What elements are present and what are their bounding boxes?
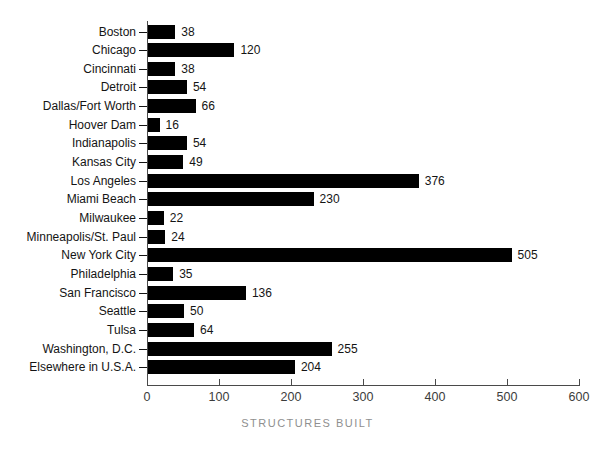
bar-row: Miami Beach230 [0, 192, 615, 206]
value-label: 64 [200, 323, 213, 337]
bar-row: Cincinnati38 [0, 62, 615, 76]
bar-row: Dallas/Fort Worth66 [0, 99, 615, 113]
x-axis-line [147, 385, 580, 386]
bar [148, 211, 164, 225]
category-tick-mark [139, 218, 147, 219]
category-label: Los Angeles [0, 174, 136, 188]
bar-row: San Francisco136 [0, 286, 615, 300]
bar-row: New York City505 [0, 248, 615, 262]
category-tick-mark [139, 87, 147, 88]
category-label: Minneapolis/St. Paul [0, 230, 136, 244]
bar [148, 304, 184, 318]
bar [148, 25, 175, 39]
category-tick-mark [139, 367, 147, 368]
category-label: Elsewhere in U.S.A. [0, 360, 136, 374]
x-tick-mark [435, 379, 436, 385]
category-label: Dallas/Fort Worth [0, 99, 136, 113]
value-label: 66 [202, 99, 215, 113]
bar-row: Boston38 [0, 25, 615, 39]
x-tick-label: 500 [487, 390, 527, 404]
x-axis-title: STRUCTURES BUILT [0, 417, 615, 429]
category-label: Cincinnati [0, 62, 136, 76]
category-label: Boston [0, 25, 136, 39]
bar [148, 80, 187, 94]
category-tick-mark [139, 143, 147, 144]
bar [148, 155, 183, 169]
bar [148, 136, 187, 150]
category-label: Miami Beach [0, 192, 136, 206]
category-tick-mark [139, 237, 147, 238]
category-tick-mark [139, 32, 147, 33]
bar [148, 118, 160, 132]
category-label: Tulsa [0, 323, 136, 337]
category-label: Milwaukee [0, 211, 136, 225]
category-tick-mark [139, 255, 147, 256]
category-label: Hoover Dam [0, 118, 136, 132]
bar-row: Seattle50 [0, 304, 615, 318]
x-tick-mark [363, 379, 364, 385]
bar [148, 62, 175, 76]
category-label: Kansas City [0, 155, 136, 169]
bar [148, 192, 314, 206]
bar-row: Detroit54 [0, 80, 615, 94]
category-label: Philadelphia [0, 267, 136, 281]
category-tick-mark [139, 330, 147, 331]
value-label: 54 [193, 80, 206, 94]
bar-row: Indianapolis54 [0, 136, 615, 150]
x-tick-label: 100 [199, 390, 239, 404]
value-label: 38 [181, 62, 194, 76]
bar [148, 286, 246, 300]
bar-row: Washington, D.C.255 [0, 342, 615, 356]
category-label: Washington, D.C. [0, 342, 136, 356]
bar-row: Philadelphia35 [0, 267, 615, 281]
category-tick-mark [139, 293, 147, 294]
value-label: 49 [189, 155, 202, 169]
category-tick-mark [139, 106, 147, 107]
bar-row: Los Angeles376 [0, 174, 615, 188]
bar [148, 360, 295, 374]
category-tick-mark [139, 125, 147, 126]
value-label: 255 [338, 342, 358, 356]
bar [148, 323, 194, 337]
value-label: 24 [171, 230, 184, 244]
x-tick-label: 300 [343, 390, 383, 404]
bar-row: Hoover Dam16 [0, 118, 615, 132]
bar [148, 248, 512, 262]
value-label: 22 [170, 211, 183, 225]
bar [148, 267, 173, 281]
category-tick-mark [139, 311, 147, 312]
bar [148, 342, 332, 356]
x-tick-label: 0 [127, 390, 167, 404]
value-label: 38 [181, 25, 194, 39]
category-tick-mark [139, 50, 147, 51]
bar-row: Chicago120 [0, 43, 615, 57]
value-label: 35 [179, 267, 192, 281]
bar [148, 174, 419, 188]
category-label: New York City [0, 248, 136, 262]
x-tick-mark [219, 379, 220, 385]
x-tick-mark [507, 379, 508, 385]
value-label: 505 [518, 248, 538, 262]
bar-row: Minneapolis/St. Paul24 [0, 230, 615, 244]
category-label: Chicago [0, 43, 136, 57]
category-label: Indianapolis [0, 136, 136, 150]
x-tick-label: 400 [415, 390, 455, 404]
bar-row: Elsewhere in U.S.A.204 [0, 360, 615, 374]
structures-built-bar-chart: Boston38Chicago120Cincinnati38Detroit54D… [0, 0, 615, 450]
value-label: 230 [320, 192, 340, 206]
x-tick-mark [579, 379, 580, 385]
value-label: 136 [252, 286, 272, 300]
value-label: 120 [240, 43, 260, 57]
value-label: 50 [190, 304, 203, 318]
category-tick-mark [139, 181, 147, 182]
bar [148, 99, 196, 113]
x-tick-mark [291, 379, 292, 385]
category-tick-mark [139, 199, 147, 200]
bar [148, 230, 165, 244]
value-label: 376 [425, 174, 445, 188]
bar-row: Tulsa64 [0, 323, 615, 337]
bar [148, 43, 234, 57]
category-tick-mark [139, 162, 147, 163]
x-tick-label: 600 [559, 390, 599, 404]
category-label: San Francisco [0, 286, 136, 300]
